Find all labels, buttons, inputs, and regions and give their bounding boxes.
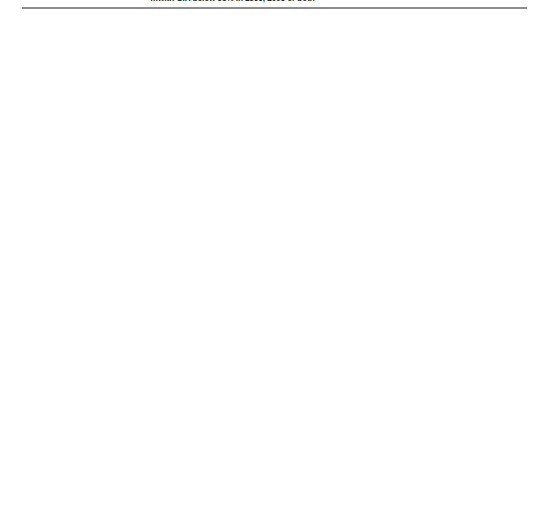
chart-legend — [0, 484, 537, 500]
page-title: …with GIR below 95% in 1999, 2005 or bot… — [150, 0, 315, 3]
chart-panel-left — [0, 14, 272, 446]
plot-area-left — [60, 14, 250, 446]
header-rule — [22, 7, 527, 9]
chart-title-strip: …with GIR below 95% in 1999, 2005 or bot… — [0, 0, 537, 5]
plot-area-right — [335, 14, 525, 446]
chart-panel-right — [272, 14, 537, 446]
